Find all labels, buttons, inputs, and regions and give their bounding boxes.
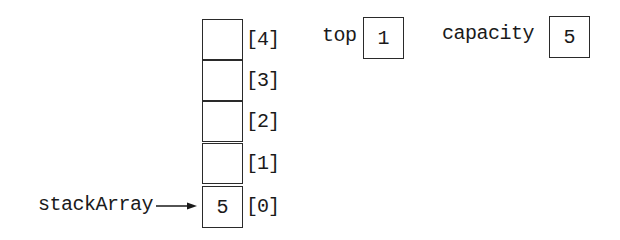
- array-cell-1: [202, 143, 243, 184]
- array-cell-3: [202, 60, 243, 101]
- capacity-value-box: 5: [549, 16, 590, 58]
- array-cell-2: [202, 101, 243, 142]
- top-value-box: 1: [363, 17, 404, 59]
- array-cell-0: 5: [202, 186, 243, 228]
- pointer-arrow-icon: [155, 200, 199, 212]
- index-label-4: [4]: [246, 19, 279, 60]
- top-label: top: [322, 24, 357, 48]
- index-label-2: [2]: [246, 101, 279, 142]
- capacity-label: capacity: [442, 22, 534, 46]
- array-cell-4: [202, 19, 243, 60]
- index-label-1: [1]: [246, 143, 279, 184]
- index-label-3: [3]: [246, 60, 279, 101]
- index-label-0: [0]: [246, 186, 279, 227]
- array-name-label: stackArray: [38, 193, 153, 217]
